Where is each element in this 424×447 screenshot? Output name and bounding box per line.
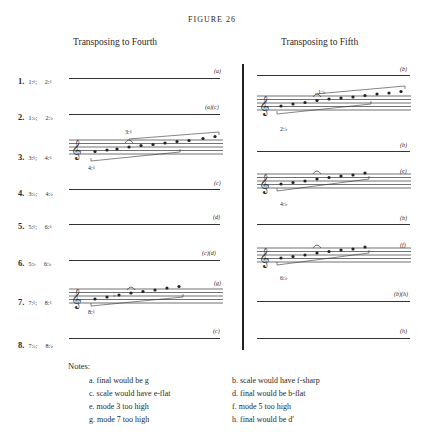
right-column-heading: Transposing to Fifth [281, 37, 358, 47]
row-label-8: 8. 7:♭; 8:♭ [18, 334, 53, 352]
right-rule-row5 [257, 224, 410, 225]
note-f: f. mode 5 too high [232, 402, 291, 411]
note-key: e. [89, 402, 95, 411]
note-text: mode 5 too high [239, 402, 291, 411]
right-staff-b: 𝄞 [253, 166, 413, 200]
svg-text:𝄞: 𝄞 [259, 94, 270, 116]
note-text: mode 3 too high [97, 402, 149, 411]
note-key: a. [89, 376, 95, 385]
left-note-row1: (a) [214, 68, 221, 74]
note-key: d. [232, 389, 238, 398]
svg-text:𝄞: 𝄞 [71, 138, 82, 160]
row-number: 7. [18, 297, 24, 307]
note-text: scale would have e-flat [97, 389, 171, 398]
row-from: 5:♭ [28, 261, 36, 267]
note-text: mode 7 too high [97, 415, 149, 424]
row-from: 1:♮; [28, 79, 36, 85]
row-from: 7:♮; [28, 300, 36, 306]
row-from: 7:♭; [28, 343, 37, 349]
note-c: c. scale would have e-flat [89, 389, 171, 398]
note-key: c. [89, 389, 95, 398]
left-row7-lower-label: 8:♮ [88, 308, 95, 315]
row-from: 5:♮; [28, 224, 36, 230]
row-number: 8. [18, 340, 24, 350]
column-divider [242, 64, 244, 350]
note-key: h. [232, 415, 238, 424]
right-note-row6: (f) [400, 242, 406, 248]
left-rule-row8 [69, 338, 220, 339]
row-to: 4:♮ [45, 155, 52, 161]
right-staff-b-lower-label: 4:♭ [280, 200, 288, 207]
note-text: final would be g [97, 376, 149, 385]
row-number: 5. [18, 221, 24, 231]
left-staff-row3: 𝄞 [65, 128, 225, 168]
left-note-row2: (a)(c) [205, 104, 219, 110]
row-from: 3:♭; [28, 191, 37, 197]
row-to: 8:♮ [45, 300, 52, 306]
svg-text:𝄞: 𝄞 [71, 287, 82, 309]
left-rule-row1 [69, 78, 220, 79]
note-key: f. [232, 402, 237, 411]
right-note-row4: (e) [400, 168, 407, 174]
note-e: e. mode 3 too high [89, 402, 149, 411]
right-staff-c-lower-label: 6:♭ [280, 274, 288, 281]
row-number: 1. [18, 76, 24, 86]
row-to: 6:♭ [44, 261, 52, 267]
note-text: final would be d′ [240, 415, 294, 424]
right-rule-row3 [257, 151, 410, 152]
figure-title: FIGURE 26 [0, 15, 424, 24]
left-note-row8: (c) [213, 328, 220, 334]
left-rule-row4 [69, 189, 220, 190]
row-to: 2:♭ [46, 115, 54, 121]
right-rule-row8 [257, 338, 410, 339]
row-to: 8:♭ [46, 343, 54, 349]
left-note-row5: (d) [213, 214, 220, 220]
row-to: 2:♮ [45, 79, 52, 85]
row-to: 4:♭ [46, 191, 54, 197]
svg-text:𝄞: 𝄞 [259, 246, 270, 268]
right-note-row3: (b) [400, 142, 407, 148]
row-from: 1:♭; [28, 115, 37, 121]
right-note-row1: (b) [400, 66, 407, 72]
row-number: 6. [18, 258, 24, 268]
left-row3-upper-label: 3:♮ [125, 128, 132, 135]
svg-text:♭: ♭ [113, 292, 116, 298]
right-rule-row1 [257, 75, 410, 76]
note-text: final would be b-flat [240, 389, 306, 398]
notes-heading: Notes: [68, 361, 90, 371]
note-text: scale would have f-sharp [240, 376, 320, 385]
left-row3-lower-label: 4:♮ [88, 164, 95, 171]
note-h: h. final would be d′ [232, 415, 294, 424]
row-label-3: 3. 3:♮; 4:♮ [18, 146, 52, 164]
row-number: 4. [18, 188, 24, 198]
right-rule-row7 [257, 301, 410, 302]
row-label-1: 1. 1:♮; 2:♮ [18, 70, 52, 88]
row-label-2: 2. 1:♭; 2:♭ [18, 106, 53, 124]
right-note-row8: (h) [400, 328, 407, 334]
row-number: 3. [18, 152, 24, 162]
left-rule-row5 [69, 224, 220, 225]
left-note-row4: (c) [214, 180, 221, 186]
left-note-row6: (c)(d) [202, 250, 216, 256]
right-staff-a-upper-label: 1:♭ [318, 88, 326, 95]
right-staff-a-lower-label: 2:♭ [280, 125, 288, 132]
note-a: a. final would be g [89, 376, 149, 385]
left-column-heading: Transposing to Fourth [73, 37, 157, 47]
row-label-5: 5. 5:♮; 6:♮ [18, 215, 52, 233]
row-label-6: 6. 5:♭ 6:♭ [18, 252, 51, 270]
note-key: b. [232, 376, 238, 385]
note-d: d. final would be b-flat [232, 389, 306, 398]
row-label-7: 7. 7:♮; 8:♮ [18, 291, 52, 309]
note-g: g. mode 7 too high [89, 415, 149, 424]
right-note-row5: (b) [400, 215, 407, 221]
svg-text:𝄞: 𝄞 [259, 172, 270, 194]
row-label-4: 4. 3:♭; 4:♭ [18, 182, 53, 200]
right-note-row7: (b)(h) [394, 291, 408, 297]
left-note-row7: (g) [214, 280, 221, 286]
right-staff-a: 𝄞 [253, 86, 413, 122]
right-staff-c: 𝄞 [253, 240, 413, 274]
row-to: 6:♮ [45, 224, 52, 230]
row-number: 2. [18, 112, 24, 122]
note-key: g. [89, 415, 95, 424]
note-b: b. scale would have f-sharp [232, 376, 320, 385]
